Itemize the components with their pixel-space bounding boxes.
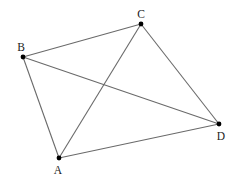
point-a xyxy=(57,156,62,161)
quadrilateral-diagram: A B C D xyxy=(0,0,239,183)
point-b xyxy=(21,55,26,60)
label-b: B xyxy=(17,41,25,53)
edge-cd xyxy=(141,24,219,124)
point-c xyxy=(139,22,144,27)
edge-da xyxy=(59,124,219,158)
diagonal-ac xyxy=(59,24,141,158)
edges xyxy=(23,24,219,158)
edge-ab xyxy=(23,57,59,158)
point-d xyxy=(217,122,222,127)
label-d: D xyxy=(217,130,225,142)
label-c: C xyxy=(137,8,145,20)
label-a: A xyxy=(54,164,63,176)
diagonal-bd xyxy=(23,57,219,124)
